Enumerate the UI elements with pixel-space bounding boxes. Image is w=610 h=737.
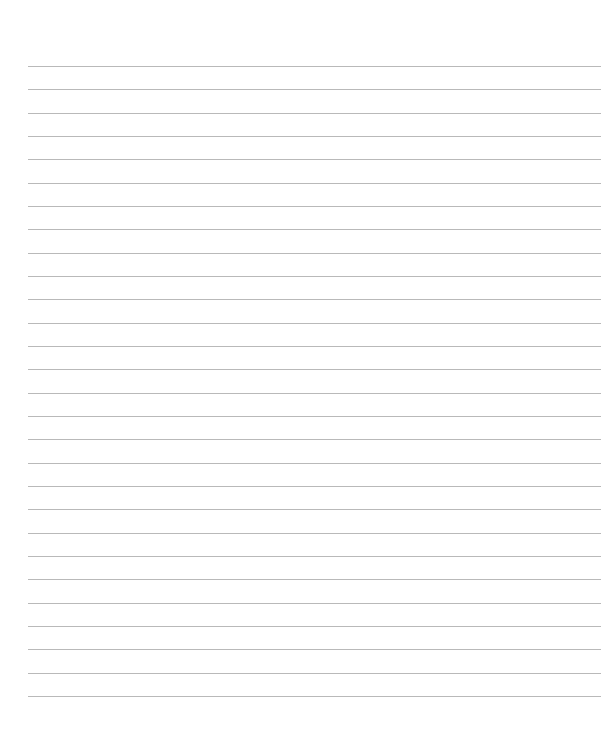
ruled-line — [28, 159, 601, 160]
ruled-line — [28, 113, 601, 114]
ruled-line — [28, 89, 601, 90]
ruled-line — [28, 533, 601, 534]
ruled-line — [28, 416, 601, 417]
ruled-line — [28, 673, 601, 674]
ruled-line — [28, 696, 601, 697]
ruled-line — [28, 183, 601, 184]
ruled-line — [28, 649, 601, 650]
lined-paper-sheet — [0, 0, 610, 737]
ruled-line — [28, 276, 601, 277]
ruled-line — [28, 509, 601, 510]
ruled-line — [28, 556, 601, 557]
ruled-line — [28, 463, 601, 464]
ruled-line — [28, 393, 601, 394]
ruled-line — [28, 206, 601, 207]
ruled-line — [28, 253, 601, 254]
ruled-line — [28, 579, 601, 580]
ruled-line — [28, 439, 601, 440]
ruled-line — [28, 603, 601, 604]
ruled-line — [28, 66, 601, 67]
ruled-line — [28, 346, 601, 347]
ruled-line — [28, 323, 601, 324]
ruled-line — [28, 299, 601, 300]
ruled-line — [28, 136, 601, 137]
ruled-line — [28, 369, 601, 370]
ruled-line — [28, 626, 601, 627]
ruled-line — [28, 486, 601, 487]
ruled-line — [28, 229, 601, 230]
